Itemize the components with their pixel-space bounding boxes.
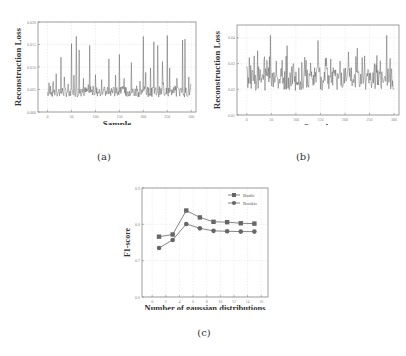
y-tick-label: 0.005 bbox=[27, 87, 36, 92]
chart-b: 0.010.020.030.04050100150200250300Sample… bbox=[203, 10, 406, 125]
square-marker bbox=[170, 232, 174, 236]
y-tick-label: 0.6 bbox=[135, 295, 140, 300]
x-tick-label: 0 bbox=[246, 117, 248, 122]
circle-marker bbox=[198, 226, 203, 231]
y-axis-label: F1-score bbox=[123, 227, 132, 257]
x-axis-label: Sample bbox=[103, 119, 132, 125]
x-tick-label: 300 bbox=[188, 114, 194, 119]
x-tick-label: 50 bbox=[70, 114, 74, 119]
legend-square-icon bbox=[232, 193, 236, 197]
y-tick-label: 0.015 bbox=[27, 42, 36, 47]
caption-b: (b) bbox=[283, 151, 323, 162]
circle-marker bbox=[238, 229, 243, 234]
chart-c: 0.60.70.80.90246810121416Number of gauss… bbox=[118, 182, 288, 310]
square-marker bbox=[252, 221, 256, 225]
chart-b-panel: 0.010.020.030.04050100150200250300Sample… bbox=[203, 10, 406, 125]
circle-marker bbox=[225, 229, 230, 234]
caption-c: (c) bbox=[184, 327, 224, 338]
x-tick-label: 100 bbox=[293, 117, 299, 122]
square-marker bbox=[211, 220, 215, 224]
legend-circle-icon bbox=[232, 201, 236, 205]
x-axis-label: Number of gaussian distributions bbox=[145, 303, 267, 310]
square-marker bbox=[157, 234, 161, 238]
legend: BattleRookie bbox=[228, 193, 258, 206]
y-tick-label: 0.03 bbox=[228, 61, 235, 66]
legend-label: Battle bbox=[243, 193, 256, 198]
y-tick-label: 0.01 bbox=[228, 113, 235, 118]
y-axis-label: Reconstruction Loss bbox=[212, 30, 222, 109]
y-tick-label: 0.9 bbox=[135, 186, 140, 191]
axes: 0.0000.0050.0100.0150.020050100150200250… bbox=[13, 20, 196, 126]
circle-marker bbox=[211, 229, 216, 234]
y-tick-label: 0.04 bbox=[228, 35, 235, 40]
circle-marker bbox=[184, 222, 189, 227]
chart-a: 0.0000.0050.0100.0150.020050100150200250… bbox=[0, 10, 200, 125]
square-marker bbox=[239, 221, 243, 225]
x-tick-label: 250 bbox=[367, 117, 373, 122]
circle-marker bbox=[157, 246, 162, 251]
x-axis-label: Sample bbox=[304, 122, 333, 125]
legend-label: Rookie bbox=[243, 201, 258, 206]
square-marker bbox=[225, 220, 229, 224]
x-tick-label: 200 bbox=[140, 114, 146, 119]
x-tick-label: 50 bbox=[269, 117, 273, 122]
circle-marker bbox=[252, 229, 257, 234]
x-tick-label: 300 bbox=[391, 117, 397, 122]
square-marker bbox=[198, 215, 202, 219]
y-axis-label: Reconstruction Loss bbox=[13, 27, 23, 106]
circle-marker bbox=[170, 238, 175, 243]
y-tick-label: 0.02 bbox=[228, 87, 235, 92]
chart-a-panel: 0.0000.0050.0100.0150.020050100150200250… bbox=[0, 10, 200, 125]
y-tick-label: 0.020 bbox=[27, 20, 36, 25]
y-tick-label: 0.000 bbox=[27, 110, 36, 115]
x-tick-label: 250 bbox=[164, 114, 170, 119]
x-tick-label: 200 bbox=[342, 117, 348, 122]
chart-c-panel: 0.60.70.80.90246810121416Number of gauss… bbox=[118, 182, 288, 310]
y-tick-label: 0.010 bbox=[27, 65, 36, 70]
y-tick-label: 0.8 bbox=[135, 222, 140, 227]
caption-a: (a) bbox=[84, 151, 124, 162]
x-tick-label: 0 bbox=[47, 114, 49, 119]
x-tick-label: 100 bbox=[92, 114, 98, 119]
y-tick-label: 0.7 bbox=[135, 258, 140, 263]
square-marker bbox=[184, 208, 188, 212]
